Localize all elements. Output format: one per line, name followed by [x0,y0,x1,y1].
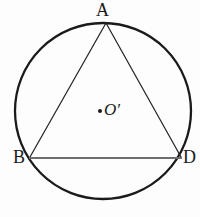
geometry-figure: A B D O′ [0,0,200,217]
triangle-side-ab [30,23,106,157]
center-point-marker [98,109,102,113]
circumscribed-circle [15,23,191,199]
vertex-label-a: A [96,2,109,19]
vertex-label-d: D [183,149,196,166]
center-label-o-prime: O′ [104,101,120,118]
vertex-label-b: B [13,149,25,166]
triangle-side-ad [106,23,181,157]
